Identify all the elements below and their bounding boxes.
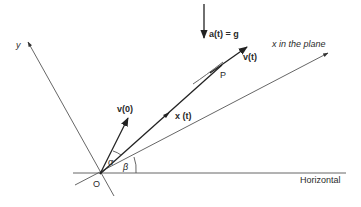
trajectory-curve xyxy=(193,62,223,84)
alpha-arc xyxy=(113,151,121,155)
beta-label: β xyxy=(122,162,128,172)
vt-label: v(t) xyxy=(243,52,257,62)
alpha-label: α xyxy=(108,157,114,167)
y-axis-label: y xyxy=(15,40,21,50)
position-label: x (t) xyxy=(175,111,192,121)
position-vector xyxy=(100,65,222,174)
vt-vector xyxy=(210,47,247,73)
beta-arc xyxy=(134,157,136,173)
v0-label: v(0) xyxy=(117,104,133,114)
accel-label: a(t) = g xyxy=(209,29,239,39)
projectile-diagram: Horizontal y x in the plane v(0) x (t) v… xyxy=(0,0,361,207)
horizontal-label: Horizontal xyxy=(300,175,341,185)
point-p-label: P xyxy=(220,70,226,80)
origin-label: O xyxy=(93,179,100,189)
x-plane-label: x in the plane xyxy=(271,39,326,49)
